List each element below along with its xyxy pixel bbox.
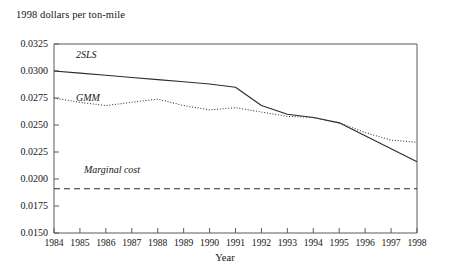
x-tick-label: 1998 bbox=[397, 237, 437, 248]
y-tick-label: 0.0150 bbox=[6, 227, 48, 238]
x-axis-title: Year bbox=[0, 252, 450, 263]
series-annotation-marginal-cost: Marginal cost bbox=[84, 164, 140, 175]
y-tick-label: 0.0300 bbox=[6, 65, 48, 76]
series-line-2sls bbox=[54, 71, 417, 162]
y-tick-label: 0.0250 bbox=[6, 119, 48, 130]
y-tick-label: 0.0175 bbox=[6, 200, 48, 211]
chart-figure: 1998 dollars per ton-mile 0.01500.01750.… bbox=[0, 0, 450, 276]
y-tick-label: 0.0275 bbox=[6, 92, 48, 103]
plot-canvas bbox=[0, 0, 450, 276]
series-annotation-2sls: 2SLS bbox=[76, 49, 97, 60]
y-tick-label: 0.0325 bbox=[6, 38, 48, 49]
series-annotation-gmm: GMM bbox=[76, 92, 100, 103]
tick-marks bbox=[54, 44, 417, 233]
series-line-gmm bbox=[54, 98, 417, 142]
y-tick-label: 0.0200 bbox=[6, 173, 48, 184]
axis-frame bbox=[54, 44, 417, 233]
y-tick-label: 0.0225 bbox=[6, 146, 48, 157]
